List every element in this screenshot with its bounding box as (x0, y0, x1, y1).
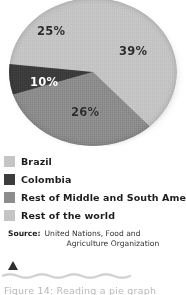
source-label: Source: (8, 229, 41, 250)
source-line-1: United Nations, Food and (45, 229, 141, 238)
legend-swatch-icon-rest-of-middle-and-south-america (4, 192, 15, 203)
legend-label-rest-of-the-world: Rest of the world (21, 210, 115, 221)
legend-label-rest-of-middle-and-south-america: Rest of Middle and South America (21, 192, 186, 203)
pie-label-rest-of-middle-and-south-america: 26% (71, 105, 99, 119)
pie-label-colombia: 10% (30, 75, 58, 89)
legend-item-colombia: Colombia (4, 170, 186, 188)
legend-item-rest-of-the-world: Rest of the world (4, 206, 186, 224)
legend-item-brazil: Brazil (4, 152, 186, 170)
triangle-marker-icon (8, 261, 18, 270)
legend-label-colombia: Colombia (21, 174, 71, 185)
source-note: Source: United Nations, Food and Agricul… (8, 229, 184, 250)
chart-legend: Brazil Colombia Rest of Middle and South… (4, 152, 186, 224)
pie-disc (9, 0, 177, 146)
legend-swatch-icon-brazil (4, 156, 15, 167)
legend-swatch-icon-rest-of-the-world (4, 210, 15, 221)
pie-label-brazil: 39% (119, 44, 147, 58)
legend-item-rest-of-middle-and-south-america: Rest of Middle and South America (4, 188, 186, 206)
source-line-2: Agriculture Organization (45, 239, 160, 248)
legend-label-brazil: Brazil (21, 156, 52, 167)
wavy-rule-divider (2, 272, 132, 279)
legend-swatch-icon-colombia (4, 174, 15, 185)
pie-label-rest-of-the-world: 25% (37, 24, 65, 38)
pie-chart: 25% 39% 10% 26% (0, 0, 186, 146)
figure-caption: Figure 14: Reading a pie graph (4, 285, 186, 295)
source-value: United Nations, Food and Agriculture Org… (45, 229, 160, 250)
figure-container: 25% 39% 10% 26% Brazil Colombia Rest of … (0, 0, 186, 295)
